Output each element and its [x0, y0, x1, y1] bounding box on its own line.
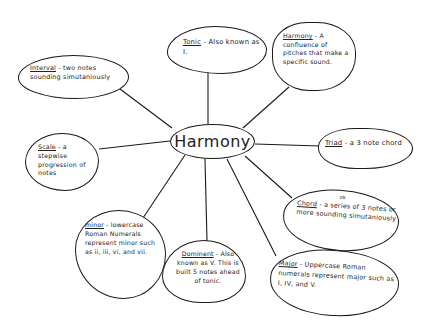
node-triad: Triad - a 3 note chord [318, 128, 413, 169]
link-chord [245, 156, 292, 198]
node-term: Dominent [182, 250, 214, 257]
node-term: Triad [325, 139, 342, 147]
node-term: Tonic [183, 38, 201, 46]
link-harmony [243, 87, 289, 128]
node-tonic: Tonic - Also known as I. [167, 26, 267, 74]
link-triad [255, 144, 320, 146]
link-interval [116, 86, 172, 128]
link-scale [99, 141, 170, 149]
node-term: Scale [38, 143, 56, 150]
link-dominent [205, 159, 207, 241]
node-interval: Interval - two notes sounding simutaniou… [18, 55, 129, 99]
link-major [227, 159, 276, 256]
node-dominent: Dominent - Also known as V. This is buil… [162, 240, 246, 303]
node-term: Harmony [283, 32, 313, 39]
node-scale: Scale - a stepwise progression of notes [25, 133, 99, 191]
central-topic-label: Harmony [174, 132, 251, 151]
node-harmony: Harmony - A confluence of pitches that m… [272, 22, 356, 91]
node-definition: - a 3 note chord [342, 139, 402, 147]
node-term: Chord [297, 199, 318, 208]
node-term: minor [85, 221, 104, 228]
link-minor [143, 155, 185, 218]
node-term: Interval [30, 64, 56, 72]
concept-map-canvas: Harmony Tonic - Also known as I. Harmony… [0, 0, 433, 328]
node-term: Major [279, 259, 298, 268]
node-annotation: ok [339, 193, 346, 202]
central-topic-harmony: Harmony [170, 124, 255, 159]
